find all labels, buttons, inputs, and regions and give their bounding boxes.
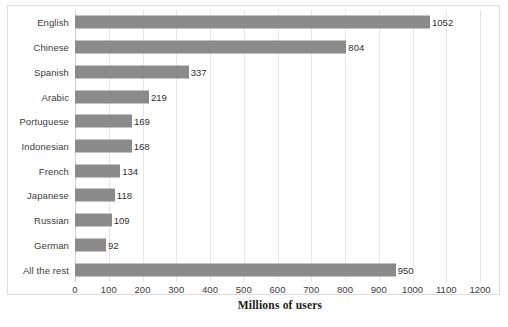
bar-row: Chinese804 bbox=[75, 35, 480, 60]
value-label-all-the-rest: 950 bbox=[396, 264, 414, 275]
category-label-portuguese: Portuguese bbox=[19, 116, 69, 127]
bar-row: Portuguese169 bbox=[75, 109, 480, 134]
bar-french[interactable] bbox=[75, 164, 120, 177]
bar-row: Indonesian168 bbox=[75, 134, 480, 159]
value-label-chinese: 804 bbox=[346, 42, 364, 53]
value-label-japanese: 118 bbox=[115, 190, 132, 201]
category-label-russian: Russian bbox=[34, 215, 69, 226]
bar-row: English1052 bbox=[75, 10, 480, 35]
bar-chinese[interactable] bbox=[75, 41, 346, 54]
bar-german[interactable] bbox=[75, 238, 106, 251]
bar-row: Arabic219 bbox=[75, 84, 480, 109]
x-tick-0: 0 bbox=[72, 284, 77, 295]
x-tick-100: 100 bbox=[101, 284, 117, 295]
x-tick-1100: 1100 bbox=[436, 284, 456, 295]
bar-all-the-rest[interactable] bbox=[75, 263, 396, 276]
gridline-1200 bbox=[480, 10, 481, 282]
x-tick-700: 700 bbox=[303, 284, 319, 295]
category-label-german: German bbox=[34, 239, 69, 250]
value-label-russian: 109 bbox=[112, 215, 130, 226]
bar-row: Spanish337 bbox=[75, 59, 480, 84]
plot-area: English1052Chinese804Spanish337Arabic219… bbox=[75, 10, 480, 282]
category-label-all-the-rest: All the rest bbox=[23, 264, 69, 275]
x-tick-600: 600 bbox=[270, 284, 286, 295]
bar-row: Japanese118 bbox=[75, 183, 480, 208]
bar-rows: English1052Chinese804Spanish337Arabic219… bbox=[75, 10, 480, 282]
value-label-spanish: 337 bbox=[189, 66, 207, 77]
category-label-chinese: Chinese bbox=[33, 42, 69, 53]
value-label-german: 92 bbox=[106, 239, 119, 250]
value-label-french: 134 bbox=[120, 165, 138, 176]
bar-japanese[interactable] bbox=[75, 189, 115, 202]
bar-portuguese[interactable] bbox=[75, 115, 132, 128]
bar-english[interactable] bbox=[75, 16, 430, 29]
bar-row: German92 bbox=[75, 233, 480, 258]
x-tick-300: 300 bbox=[168, 284, 184, 295]
category-label-english: English bbox=[37, 17, 69, 28]
bar-russian[interactable] bbox=[75, 214, 112, 227]
category-label-indonesian: Indonesian bbox=[22, 140, 69, 151]
bar-row: All the rest950 bbox=[75, 257, 480, 282]
category-label-french: French bbox=[39, 165, 69, 176]
bar-indonesian[interactable] bbox=[75, 139, 132, 152]
value-label-english: 1052 bbox=[430, 17, 453, 28]
x-tick-500: 500 bbox=[236, 284, 252, 295]
bar-arabic[interactable] bbox=[75, 90, 149, 103]
x-tick-1200: 1200 bbox=[469, 284, 490, 295]
category-label-japanese: Japanese bbox=[27, 190, 69, 201]
value-label-arabic: 219 bbox=[149, 91, 167, 102]
bar-row: Russian109 bbox=[75, 208, 480, 233]
category-label-spanish: Spanish bbox=[34, 66, 69, 77]
chart-frame: English1052Chinese804Spanish337Arabic219… bbox=[7, 5, 500, 295]
bar-spanish[interactable] bbox=[75, 65, 189, 78]
x-tick-1000: 1000 bbox=[402, 284, 423, 295]
bar-row: French134 bbox=[75, 158, 480, 183]
x-tick-900: 900 bbox=[371, 284, 387, 295]
x-tick-400: 400 bbox=[202, 284, 218, 295]
x-axis-title: Millions of users bbox=[0, 299, 508, 311]
value-label-indonesian: 168 bbox=[132, 140, 150, 151]
x-axis-tick-labels: 0100200300400500600700800900100011001200 bbox=[75, 282, 480, 298]
x-tick-200: 200 bbox=[135, 284, 151, 295]
category-label-arabic: Arabic bbox=[41, 91, 69, 102]
x-tick-800: 800 bbox=[337, 284, 353, 295]
value-label-portuguese: 169 bbox=[132, 116, 150, 127]
